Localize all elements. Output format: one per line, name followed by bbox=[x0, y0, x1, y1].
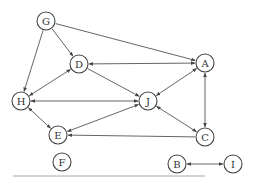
edge-c-e bbox=[68, 135, 195, 137]
node-label: G bbox=[42, 16, 50, 27]
edge-a-j bbox=[156, 69, 196, 96]
node-j: J bbox=[139, 92, 157, 110]
node-h: H bbox=[12, 92, 30, 110]
node-c: C bbox=[196, 128, 214, 146]
node-label: B bbox=[173, 159, 180, 170]
edge-j-c bbox=[157, 106, 197, 131]
node-label: H bbox=[17, 96, 26, 107]
edge-g-h bbox=[24, 31, 43, 92]
node-b: B bbox=[168, 155, 186, 173]
node-e: E bbox=[49, 126, 67, 144]
node-label: A bbox=[200, 58, 209, 69]
node-f: F bbox=[53, 153, 71, 171]
edge-g-d bbox=[52, 29, 73, 56]
node-label: E bbox=[54, 130, 61, 141]
node-a: A bbox=[196, 54, 214, 72]
graph-diagram: GDAHJECFBI bbox=[0, 0, 255, 187]
node-g: G bbox=[37, 12, 55, 30]
node-label: J bbox=[145, 96, 150, 107]
edge-d-h bbox=[29, 69, 70, 95]
node-d: D bbox=[70, 55, 88, 73]
edge-a-d bbox=[89, 63, 195, 64]
edge-d-j bbox=[88, 69, 139, 97]
node-i: I bbox=[224, 155, 242, 173]
node-label: I bbox=[231, 159, 235, 170]
edge-h-e bbox=[28, 108, 50, 128]
node-label: C bbox=[201, 132, 209, 143]
node-layer: GDAHJECFBI bbox=[12, 12, 242, 173]
node-label: F bbox=[59, 157, 66, 168]
edge-j-e bbox=[67, 105, 138, 132]
node-label: D bbox=[75, 59, 83, 70]
